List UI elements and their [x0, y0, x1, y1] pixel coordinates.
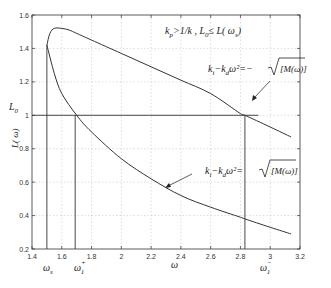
svg-text:ki−kdω²=−: ki−kdω²=− [208, 63, 253, 77]
svg-text:1.2: 1.2 [19, 78, 29, 85]
plot-frame [32, 15, 300, 249]
svg-text:0.2: 0.2 [19, 246, 29, 253]
svg-text:1: 1 [25, 112, 29, 119]
svg-text:1.4: 1.4 [27, 253, 37, 260]
upper-curve-label: ki−kdω²=− [M(ω)] [208, 58, 307, 77]
svg-text:1.4: 1.4 [19, 45, 29, 52]
svg-text:0.6: 0.6 [19, 179, 29, 186]
lower-curve-label: ki−kdω²= [M(ω)] [205, 160, 298, 179]
svg-text:2: 2 [119, 253, 123, 260]
lower-curve [47, 45, 291, 234]
annotation-arrow-upper [252, 81, 270, 101]
svg-text:0.8: 0.8 [19, 145, 29, 152]
omega-s-label: ωs [43, 262, 53, 276]
svg-text:2.8: 2.8 [236, 253, 246, 260]
svg-text:3.2: 3.2 [295, 253, 305, 260]
grid-lines [32, 15, 300, 249]
svg-text:0.4: 0.4 [19, 212, 29, 219]
svg-text:1.6: 1.6 [19, 12, 29, 19]
reference-lines [32, 45, 258, 249]
svg-text:ki−kdω²=: ki−kdω²= [205, 165, 243, 179]
svg-text:[M(ω)]: [M(ω)] [271, 166, 298, 176]
svg-text:1.6: 1.6 [57, 253, 67, 260]
svg-text:1.8: 1.8 [87, 253, 97, 260]
svg-text:[M(ω)]: [M(ω)] [280, 64, 307, 74]
x-axis-label: ω [171, 259, 178, 270]
arrowhead-icon [165, 183, 171, 188]
y-axis-label: L( ω) [10, 128, 20, 149]
axis-ticks: 1.41.61.822.22.42.62.833.20.20.40.60.811… [19, 12, 305, 261]
omega-1-minus-label: ω−1 [260, 259, 272, 276]
y-label-L0: L0 [8, 101, 19, 115]
svg-text:2.2: 2.2 [146, 253, 156, 260]
chart-figure: 1.41.61.822.22.42.62.833.20.20.40.60.811… [0, 0, 331, 288]
condition-annotation: kp>1/k , L0≤ L( ωs) [165, 25, 242, 39]
annotation-arrow-lower [165, 174, 192, 188]
omega-1-plus-label: ω+1 [74, 259, 86, 276]
svg-text:2.6: 2.6 [206, 253, 216, 260]
upper-curve [47, 28, 291, 137]
